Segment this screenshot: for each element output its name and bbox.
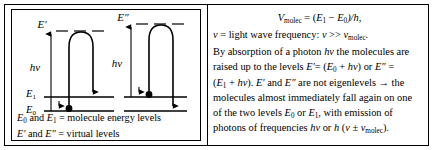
label-h-nu-right: hν bbox=[112, 57, 123, 69]
paragraph-line-2: raised up to the levels E′= (E0 + hν) or… bbox=[213, 60, 426, 76]
right-panel-text: Vmolec = (E1 − E0)/h, ν = light wave fre… bbox=[209, 5, 431, 145]
eq1-tail: )/h, bbox=[347, 12, 361, 23]
p3-eprime: E′ bbox=[256, 77, 265, 88]
p2-eprime: E′ bbox=[306, 61, 315, 72]
population-dot-e1-right bbox=[146, 91, 153, 98]
equation-molecular-frequency: Vmolec = (E1 − E0)/h, bbox=[213, 11, 426, 27]
label-e1: E1 bbox=[25, 88, 36, 101]
eq2-nu3-sub: molec bbox=[348, 34, 366, 42]
legend-line-molecule-levels: E0 and E1 = molecule energy levels bbox=[17, 113, 161, 125]
p2-plus: + bbox=[337, 61, 348, 72]
equation-light-frequency: ν = light wave frequency: ν >> νmolec. bbox=[213, 28, 426, 44]
eq2-period: . bbox=[366, 29, 369, 40]
eq1-v-sub: molec bbox=[284, 17, 302, 25]
explanatory-paragraph: By absorption of a photon hν the molecul… bbox=[213, 45, 426, 137]
p3-i: are not eigenlevels → the bbox=[295, 77, 404, 88]
label-h-nu-left: hν bbox=[30, 61, 41, 73]
p2-or: ) or bbox=[358, 61, 375, 72]
figure-container: E′ E″ hν hν E1 E0 E0 and E1 = molecule e… bbox=[0, 0, 433, 150]
p6-a: photons of frequencies bbox=[213, 122, 310, 133]
p6-numolec-sub: molec bbox=[365, 127, 383, 135]
p2-hnu: hν bbox=[348, 61, 358, 72]
paragraph-line-5: of the two levels E0 or E1, with emissio… bbox=[213, 106, 426, 122]
p2-c: = ( bbox=[315, 61, 327, 72]
p3-edprime: E″ bbox=[285, 77, 296, 88]
paragraph-line-3: (E1 + hν). E′ and E″ are not eigenlevels… bbox=[213, 76, 426, 92]
p5-a: of the two levels bbox=[213, 107, 285, 118]
p2-eq: = bbox=[386, 61, 394, 72]
p2-edprime: E″ bbox=[375, 61, 386, 72]
legend-and-2: and bbox=[25, 128, 45, 139]
p3-hnu: hν bbox=[237, 77, 247, 88]
eq1-minus: − bbox=[326, 12, 337, 23]
p1-c: the molecules are bbox=[334, 46, 409, 57]
paragraph-line-4: molecules almost immediately fall again … bbox=[213, 91, 426, 105]
legend-and-1: and bbox=[27, 112, 47, 123]
label-e-double-prime: E″ bbox=[116, 11, 129, 23]
left-panel-energy-diagram: E′ E″ hν hν E1 E0 E0 and E1 = molecule e… bbox=[5, 5, 207, 145]
paragraph-line-6: photons of frequencies hν or h (ν ± νmol… bbox=[213, 121, 426, 137]
p3-plus: + bbox=[226, 77, 237, 88]
p5-or: or bbox=[295, 107, 309, 118]
p6-hnu: hν bbox=[310, 122, 320, 133]
p1-a: By absorption of a photon bbox=[213, 46, 324, 57]
legend-line-virtual-levels: E′ and E″ = virtual levels bbox=[17, 129, 119, 139]
p6-i: ). bbox=[383, 122, 389, 133]
eq2-gg: >> bbox=[327, 29, 344, 40]
panel-divider bbox=[207, 4, 208, 146]
legend-text-1: = molecule energy levels bbox=[56, 112, 161, 123]
scattering-path-left bbox=[69, 32, 93, 111]
p6-pm: ± bbox=[350, 122, 361, 133]
paragraph-line-1: By absorption of a photon hν the molecul… bbox=[213, 45, 426, 59]
population-dot-e0-left bbox=[66, 105, 73, 112]
legend-e-double-prime: E″ bbox=[45, 128, 55, 139]
p1-hnu: hν bbox=[324, 46, 334, 57]
eq1-eq: = ( bbox=[302, 12, 317, 23]
p5-e: , with emission of bbox=[318, 107, 392, 118]
scattering-path-right bbox=[149, 25, 173, 106]
eq2-text: = light wave frequency: bbox=[218, 29, 322, 40]
label-e-prime: E′ bbox=[36, 18, 47, 30]
p3-e: ). bbox=[247, 77, 256, 88]
p6-or: or bbox=[320, 122, 334, 133]
legend-text-2: = virtual levels bbox=[56, 128, 120, 139]
p2-a: raised up to the levels bbox=[213, 61, 306, 72]
p3-and: and bbox=[265, 77, 285, 88]
